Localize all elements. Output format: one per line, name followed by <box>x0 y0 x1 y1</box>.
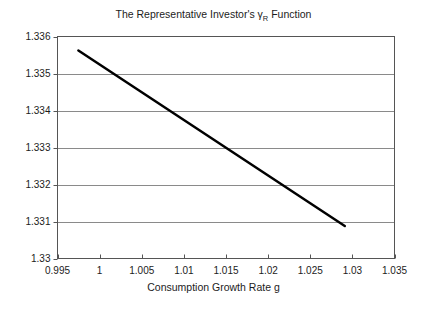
y-tick-label: 1.334 <box>0 106 51 116</box>
x-tick-label: 1.035 <box>365 266 425 276</box>
y-tick-label: 1.33 <box>0 254 51 264</box>
data-series-line <box>78 51 344 226</box>
y-tick-label: 1.332 <box>0 180 51 190</box>
y-tick-label: 1.333 <box>0 143 51 153</box>
y-tick-label: 1.336 <box>0 32 51 42</box>
chart-figure: The Representative Investor's γR Functio… <box>0 0 427 315</box>
y-tick-label: 1.335 <box>0 69 51 79</box>
x-tick-marks-group <box>59 255 396 259</box>
x-axis-title: Consumption Growth Rate g <box>0 281 427 294</box>
y-tick-marks-group <box>54 38 58 260</box>
y-tick-label: 1.331 <box>0 217 51 227</box>
